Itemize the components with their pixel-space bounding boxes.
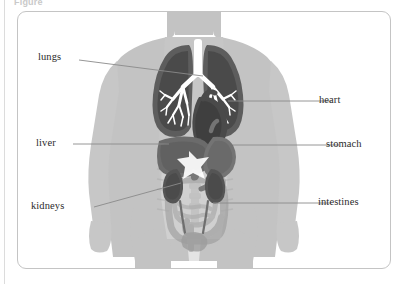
- label-intestines: intestines: [318, 196, 359, 207]
- label-heart: heart: [319, 94, 341, 105]
- label-lungs: lungs: [38, 51, 61, 62]
- figure-caption-top: Figure: [14, 0, 43, 7]
- label-stomach: stomach: [326, 138, 362, 149]
- page-edge-rule: [4, 0, 5, 284]
- figure-page: Figure: [0, 0, 401, 284]
- label-kidneys: kidneys: [31, 200, 64, 211]
- label-liver: liver: [36, 137, 56, 148]
